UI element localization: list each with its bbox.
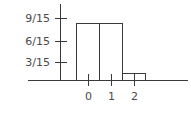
bar-category-0	[77, 24, 100, 81]
x-tick-label-2: 2	[131, 90, 138, 103]
y-tick-label-bottom: 3/15	[25, 56, 50, 69]
x-tick-label-0: 0	[85, 90, 92, 103]
bar-category-1	[100, 24, 123, 81]
histogram-chart: 9/15 6/15 3/15 0 1 2	[0, 0, 191, 114]
y-tick-label-top: 9/15	[25, 12, 50, 25]
y-tick-label-middle: 6/15	[25, 35, 50, 48]
chart-canvas: 9/15 6/15 3/15 0 1 2	[0, 0, 191, 114]
x-tick-label-1: 1	[108, 90, 115, 103]
